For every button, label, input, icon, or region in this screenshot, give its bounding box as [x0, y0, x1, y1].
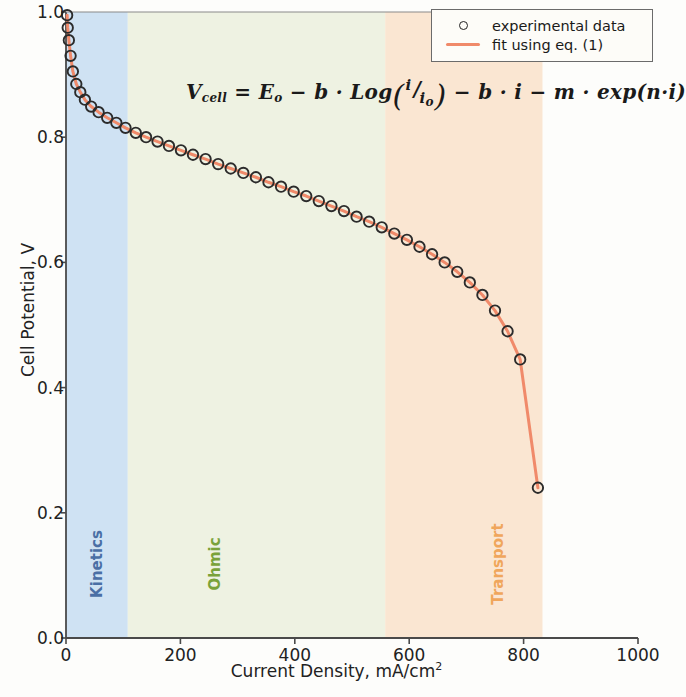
eq-dot-3: · [582, 80, 589, 104]
legend: experimental datafit using eq. (1) [431, 9, 653, 62]
x-axis-label: Current Density, mA/cm2 [0, 660, 673, 681]
eq-minus-1: − [290, 80, 307, 104]
legend-key-experimental [440, 21, 486, 30]
eq-dot-2: · [500, 80, 507, 104]
region-label-ohmic: Ohmic [206, 504, 224, 624]
y-tick-label: 0.2 [4, 503, 64, 523]
eq-minus-3: − [529, 80, 546, 104]
legend-key-fit [440, 43, 486, 46]
eq-exp: exp [597, 80, 637, 104]
eq-exp-paren-close: ) [676, 80, 686, 104]
y-axis-label: Cell Potential, V [18, 210, 38, 410]
legend-marker-line-icon [446, 43, 480, 46]
eq-log: Log [350, 80, 392, 104]
eq-vcell: Vcell [186, 80, 227, 104]
eq-b-2: b [478, 80, 492, 104]
legend-entry: fit using eq. (1) [440, 35, 644, 54]
eq-dot-1: · [336, 80, 343, 104]
region-label-kinetics: Kinetics [88, 504, 106, 624]
legend-entry: experimental data [440, 16, 644, 35]
x-axis-label-exponent: 2 [435, 660, 442, 673]
eq-i-2: i [514, 80, 522, 104]
eq-minus-2: − [454, 80, 471, 104]
legend-marker-circle-icon [459, 21, 468, 30]
eq-equals: = [234, 80, 251, 104]
eq-n: n [646, 80, 661, 104]
y-tick-label: 0.8 [4, 127, 64, 147]
eq-eo: Eo [259, 80, 283, 104]
legend-label: fit using eq. (1) [486, 37, 603, 53]
eq-paren-open: ( [393, 78, 405, 113]
eq-m: m [554, 80, 575, 104]
equation-annotation: Vcell = Eo − b · Log(i/io) − b · i − m ·… [186, 78, 686, 113]
eq-b-1: b [314, 80, 328, 104]
legend-label: experimental data [486, 18, 625, 34]
eq-paren-close: ) [435, 78, 447, 113]
x-axis-label-text: Current Density, mA/cm [231, 661, 436, 681]
y-tick-label: 1.0 [4, 2, 64, 22]
region-label-transport: Transport [489, 504, 507, 624]
eq-exp-paren-open: ( [637, 80, 647, 104]
